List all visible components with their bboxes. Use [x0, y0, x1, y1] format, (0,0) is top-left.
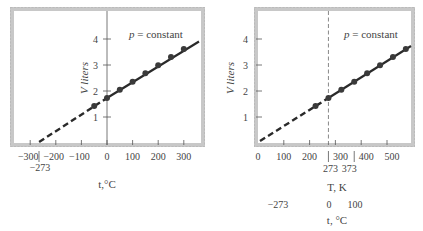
x-tick-label: 300	[176, 151, 191, 162]
data-point	[377, 62, 383, 68]
data-point	[130, 79, 136, 85]
x-tick-label: 300	[333, 151, 348, 162]
x-tick-label: −200	[43, 151, 64, 162]
absolute-zero-label: −273	[30, 162, 51, 173]
data-point	[364, 70, 370, 76]
data-point	[338, 87, 344, 93]
data-point	[390, 54, 396, 60]
y-tick-label: 2	[93, 86, 98, 97]
data-point	[313, 103, 319, 109]
x-tick-label: 200	[151, 151, 166, 162]
x-tick-label: 500	[385, 151, 400, 162]
celsius-minus-273-label: −273	[268, 199, 289, 210]
y-tick-label: 3	[93, 60, 98, 71]
kelvin-373-label: 373	[342, 163, 357, 174]
extrapolation-line	[260, 98, 328, 141]
data-point	[351, 79, 357, 85]
data-point	[104, 95, 110, 101]
y-axis-title: V liters	[78, 62, 90, 94]
x-tick-label: 0	[256, 151, 261, 162]
data-point	[325, 95, 331, 101]
x-tick-label: 100	[125, 151, 140, 162]
y-tick-label: 4	[243, 34, 248, 45]
celsius-0-label: 0	[327, 199, 332, 210]
charles-law-charts: 1234−300−200−1000100200300−273t,°CV lite…	[0, 0, 423, 231]
data-point	[155, 62, 161, 68]
data-point	[403, 46, 409, 52]
y-tick-label: 2	[243, 86, 248, 97]
y-tick-label: 3	[243, 60, 248, 71]
x-tick-label: 400	[359, 151, 374, 162]
y-tick-label: 4	[93, 34, 98, 45]
y-tick-label: 1	[93, 112, 98, 123]
x-tick-label: 100	[276, 151, 291, 162]
data-point	[117, 87, 123, 93]
right-chart-kelvin: 12340100200300400500273373T, K−2730100t,…	[224, 8, 415, 227]
x-tick-label: 200	[302, 151, 317, 162]
x-axis-title: t,°C	[98, 178, 116, 190]
celsius-100-label: 100	[348, 199, 363, 210]
data-point	[181, 46, 187, 52]
y-tick-label: 1	[243, 112, 248, 123]
y-axis-title: V liters	[224, 62, 236, 94]
left-chart-celsius: 1234−300−200−1000100200300−273t,°CV lite…	[11, 8, 205, 191]
celsius-axis-title: t, °C	[327, 214, 347, 226]
kelvin-273-label: 273	[323, 163, 338, 174]
pressure-constant-annotation: p = constant	[343, 28, 398, 40]
data-point	[91, 103, 97, 109]
x-axis-title: T, K	[327, 181, 346, 193]
x-tick-label: −100	[69, 151, 90, 162]
x-tick-label: −300	[18, 151, 39, 162]
x-tick-label: 0	[105, 151, 110, 162]
data-point	[142, 70, 148, 76]
pressure-constant-annotation: p = constant	[128, 28, 183, 40]
data-point	[168, 54, 174, 60]
